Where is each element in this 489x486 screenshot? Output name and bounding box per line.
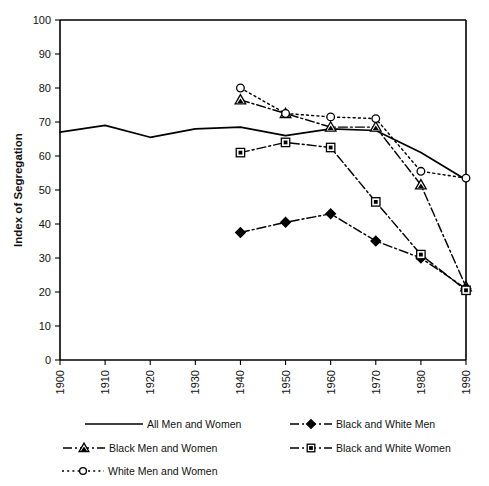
legend-label: Black Men and Women — [109, 442, 218, 454]
data-point-square-core — [284, 141, 288, 145]
data-point-circle — [372, 115, 380, 123]
x-tick-label: 1950 — [280, 370, 292, 394]
y-tick-label: 60 — [39, 150, 51, 162]
chart-canvas: Index of Segregation 0102030405060708090… — [0, 0, 489, 486]
y-tick-label: 80 — [39, 82, 51, 94]
x-tick-label: 1990 — [460, 370, 472, 394]
x-tick-label: 1900 — [54, 370, 66, 394]
data-point-square-core — [239, 151, 243, 155]
data-point-square-core — [419, 253, 423, 257]
y-tick-label: 10 — [39, 320, 51, 332]
data-point-square-core — [329, 146, 333, 150]
x-tick-label: 1970 — [370, 370, 382, 394]
y-tick-label: 40 — [39, 218, 51, 230]
x-tick-label: 1940 — [234, 370, 246, 394]
x-tick-label: 1920 — [144, 370, 156, 394]
x-tick-label: 1960 — [325, 370, 337, 394]
legend-label: Black and White Women — [336, 442, 451, 454]
data-point-circle — [417, 168, 425, 176]
data-point-square-core — [464, 288, 468, 292]
y-tick-label: 50 — [39, 184, 51, 196]
segregation-index-chart: Index of Segregation 0102030405060708090… — [0, 0, 489, 486]
y-tick-label: 70 — [39, 116, 51, 128]
data-point-circle — [237, 84, 245, 92]
legend-label: Black and White Men — [336, 418, 435, 430]
legend-label: All Men and Women — [147, 418, 242, 430]
x-tick-label: 1910 — [99, 370, 111, 394]
y-tick-label: 100 — [33, 14, 51, 26]
y-tick-label: 90 — [39, 48, 51, 60]
data-point-circle — [80, 468, 87, 475]
data-point-circle — [282, 110, 290, 118]
data-point-square-core — [309, 446, 313, 450]
legend-label: White Men and Women — [108, 465, 218, 477]
chart-background — [0, 0, 489, 486]
x-tick-label: 1930 — [189, 370, 201, 394]
y-tick-label: 0 — [45, 354, 51, 366]
data-point-square-core — [374, 200, 378, 204]
y-axis-title: Index of Segregation — [12, 133, 24, 247]
y-tick-label: 20 — [39, 286, 51, 298]
y-axis-title-text: Index of Segregation — [12, 133, 24, 247]
data-point-circle — [327, 113, 335, 121]
x-tick-label: 1980 — [415, 370, 427, 394]
data-point-circle — [462, 174, 470, 182]
y-tick-label: 30 — [39, 252, 51, 264]
